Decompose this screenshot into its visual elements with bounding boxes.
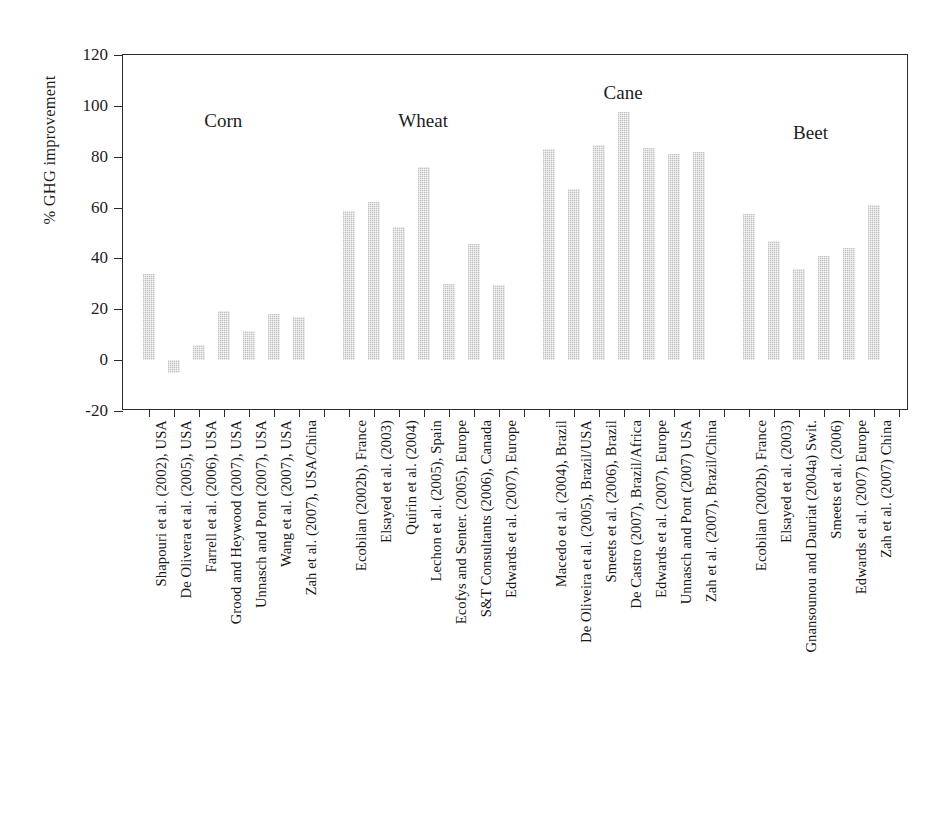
x-axis-tick <box>474 409 475 417</box>
x-axis-tick <box>899 409 900 417</box>
bar <box>868 205 880 360</box>
y-axis-tick-label: 40 <box>91 248 108 268</box>
x-axis-category-label: Ecofys and Senter. (2005), Europe <box>454 420 469 624</box>
y-axis-label: % GHG improvement <box>40 40 60 260</box>
bar <box>193 345 205 360</box>
y-axis-tick: 20 <box>114 309 123 310</box>
x-axis-category-label: De Castro (2007), Brazil/Africa <box>629 420 644 609</box>
x-axis-tick <box>149 409 150 417</box>
bar <box>568 189 580 361</box>
x-axis-category-label: Shapouri et al. (2002), USA <box>154 420 169 586</box>
x-axis-category-label: Edwards et al. (2007) Europe <box>854 420 869 594</box>
x-axis-tick <box>824 409 825 417</box>
bar <box>368 202 380 360</box>
x-axis-tick <box>274 409 275 417</box>
bar <box>543 149 555 360</box>
x-axis-category-label: Zah et al. (2007), Brazil/China <box>704 420 719 602</box>
bar <box>443 284 455 360</box>
x-axis-tick <box>599 409 600 417</box>
x-axis-tick <box>549 409 550 417</box>
x-axis-tick <box>249 409 250 417</box>
group-label-cane: Cane <box>604 82 643 104</box>
x-axis-tick <box>449 409 450 417</box>
group-label-wheat: Wheat <box>398 110 448 132</box>
x-axis-category-label: Unnasch and Pont (2007), USA <box>254 420 269 608</box>
x-axis-category-label: Zah et al. (2007) China <box>879 420 894 558</box>
x-axis-category-label: Grood and Heywood (2007), USA <box>229 420 244 624</box>
bar <box>843 248 855 360</box>
y-axis-tick: 100 <box>114 106 123 107</box>
y-axis-tick-label: -20 <box>85 401 108 421</box>
x-axis-category-label: Gnansounou and Dauriat (2004a) Swit. <box>804 420 819 653</box>
x-axis-tick <box>749 409 750 417</box>
bar <box>768 241 780 361</box>
x-axis-category-label: Wang et al. (2007), USA <box>279 420 294 567</box>
x-axis-tick <box>324 409 325 417</box>
x-axis-tick <box>424 409 425 417</box>
x-axis-category-label: S&T Consultants (2006), Canada <box>479 420 494 617</box>
x-axis-tick <box>674 409 675 417</box>
x-axis-category-label: Ecobilan (2002b), France <box>754 420 769 571</box>
x-axis-category-label: Zah et al. (2007), USA/China <box>304 420 319 595</box>
bar <box>218 311 230 361</box>
x-axis-category-label: Unnasch and Pont (2007) USA <box>679 420 694 604</box>
bar <box>743 214 755 360</box>
y-axis-tick-label: 80 <box>91 147 108 167</box>
x-axis-tick <box>299 409 300 417</box>
x-axis-category-label: Elsayed et al. (2003) <box>379 420 394 543</box>
y-axis-tick: -20 <box>114 411 123 412</box>
x-axis-tick <box>224 409 225 417</box>
bar <box>168 360 180 373</box>
bar <box>343 211 355 360</box>
plot-area: 120100806040200-20 <box>122 54 908 410</box>
y-axis-tick: 80 <box>114 157 123 158</box>
y-axis-tick: 60 <box>114 208 123 209</box>
x-axis-tick <box>724 409 725 417</box>
y-axis-tick-label: 0 <box>100 350 109 370</box>
bar <box>418 167 430 360</box>
bar <box>818 256 830 360</box>
x-axis-category-label: Elsayed et al. (2003) <box>779 420 794 543</box>
x-axis-category-label: Smeets et al. (2006), Brazil <box>604 420 619 582</box>
bar <box>468 244 480 360</box>
bar <box>593 145 605 360</box>
bar <box>618 112 630 360</box>
y-axis-tick: 120 <box>114 55 123 56</box>
x-axis-tick <box>649 409 650 417</box>
x-axis-tick <box>574 409 575 417</box>
x-axis-tick <box>499 409 500 417</box>
y-axis-tick-label: 60 <box>91 198 108 218</box>
x-axis-tick <box>774 409 775 417</box>
y-axis-tick-label: 120 <box>83 45 109 65</box>
x-axis-tick <box>174 409 175 417</box>
x-axis-tick <box>624 409 625 417</box>
bar <box>293 317 305 360</box>
bar <box>793 269 805 361</box>
x-axis-tick <box>874 409 875 417</box>
x-axis-tick <box>199 409 200 417</box>
x-axis-tick <box>699 409 700 417</box>
x-axis-tick <box>799 409 800 417</box>
y-axis-tick-label: 20 <box>91 299 108 319</box>
bar <box>493 285 505 360</box>
x-axis-category-label: Lechon et al. (2005), Spain <box>429 420 444 582</box>
bar <box>668 154 680 360</box>
x-axis-category-label: Quirin et al. (2004) <box>404 420 419 535</box>
x-axis-category-label: De Oliveira et al. (2005), Brazil/USA <box>579 420 594 643</box>
chart-figure: % GHG improvement 120100806040200-20 Cor… <box>0 0 944 816</box>
y-axis-tick: 40 <box>114 258 123 259</box>
y-axis-tick-label: 100 <box>83 96 109 116</box>
bar <box>243 331 255 360</box>
x-axis-tick <box>399 409 400 417</box>
bar <box>143 274 155 360</box>
y-axis-tick: 0 <box>114 360 123 361</box>
group-label-beet: Beet <box>793 122 828 144</box>
x-axis-tick <box>349 409 350 417</box>
x-axis-tick <box>849 409 850 417</box>
x-axis-category-label: Edwards et al. (2007), Europe <box>504 420 519 598</box>
x-axis-tick <box>524 409 525 417</box>
bar <box>693 152 705 361</box>
x-axis-tick <box>374 409 375 417</box>
bar <box>268 314 280 360</box>
x-axis-category-label: Edwards et al. (2007), Europe <box>654 420 669 598</box>
